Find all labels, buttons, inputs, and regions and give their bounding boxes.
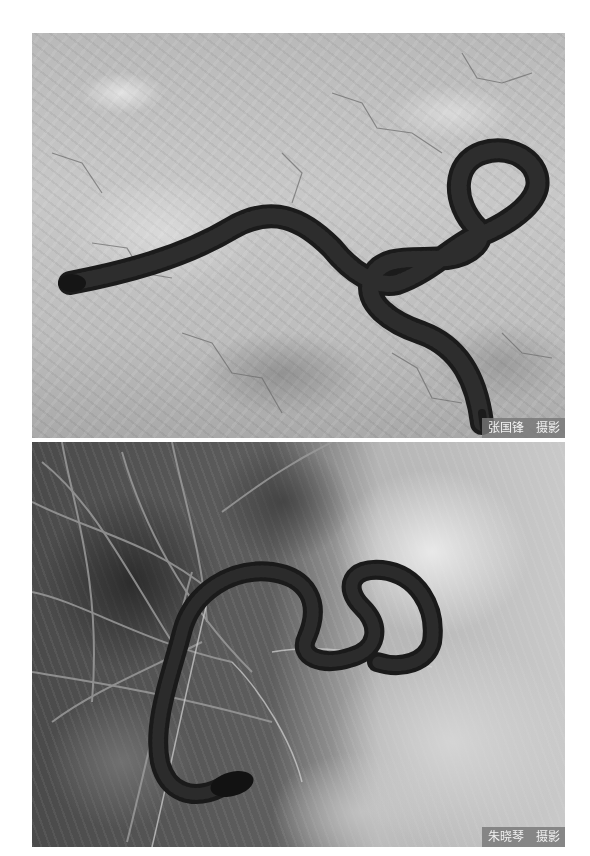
photo-credit-caption: 朱晓琴 摄影 xyxy=(482,827,565,847)
photo-snake-on-soil: 张国锋 摄影 xyxy=(32,33,565,438)
photo-snake-in-grass: 朱晓琴 摄影 xyxy=(32,442,565,847)
photographer-name: 朱晓琴 xyxy=(488,827,524,847)
photographer-name: 张国锋 xyxy=(488,418,524,438)
snake-illustration-bottom xyxy=(32,442,565,847)
credit-label: 摄影 xyxy=(536,827,560,847)
photo-credit-caption: 张国锋 摄影 xyxy=(482,418,565,438)
snake-illustration-top xyxy=(32,33,565,438)
credit-label: 摄影 xyxy=(536,418,560,438)
